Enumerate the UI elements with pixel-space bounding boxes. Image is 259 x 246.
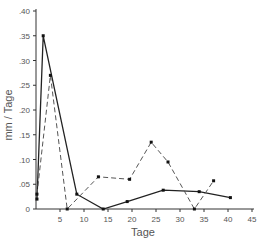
- y-tick-label: .40: [19, 7, 31, 16]
- x-tick-label: 25: [152, 215, 161, 224]
- data-point-marker: [102, 208, 105, 211]
- x-tick-label: 45: [248, 215, 257, 224]
- x-axis-title: Tage: [131, 226, 155, 238]
- x-tick-label: 15: [104, 215, 113, 224]
- data-point-marker: [35, 198, 38, 201]
- x-tick-label: 20: [128, 215, 137, 224]
- y-tick-label: 0: [26, 205, 31, 214]
- x-tick-label: 5: [58, 215, 63, 224]
- series-dashed-line: [37, 75, 214, 209]
- x-tick-label: 30: [176, 215, 185, 224]
- x-tick-label: 10: [80, 215, 89, 224]
- y-tick-label: .05: [19, 180, 31, 189]
- data-point-marker: [97, 175, 100, 178]
- y-tick-label: .30: [19, 57, 31, 66]
- data-point-marker: [66, 208, 69, 211]
- line-chart: 0.05.10.15.20.25.30.35.40 51015202530354…: [0, 0, 259, 246]
- y-axis-ticks: 0.05.10.15.20.25.30.35.40: [19, 7, 36, 214]
- data-point-marker: [229, 196, 232, 199]
- data-point-marker: [198, 190, 201, 193]
- series-layer: [35, 34, 231, 210]
- data-point-marker: [167, 160, 170, 163]
- data-point-marker: [193, 208, 196, 211]
- data-point-marker: [150, 141, 153, 144]
- y-tick-label: .15: [19, 131, 31, 140]
- y-tick-label: .10: [19, 156, 31, 165]
- x-tick-label: 40: [224, 215, 233, 224]
- data-point-marker: [35, 193, 38, 196]
- y-tick-label: .25: [19, 81, 31, 90]
- y-tick-label: .35: [19, 32, 31, 41]
- data-point-marker: [128, 178, 131, 181]
- x-axis-ticks: 51015202530354045: [58, 209, 257, 224]
- y-tick-label: .20: [19, 106, 31, 115]
- data-point-marker: [162, 189, 165, 192]
- data-point-marker: [212, 179, 215, 182]
- data-point-marker: [42, 34, 45, 37]
- data-point-marker: [75, 193, 78, 196]
- series-solid-line: [37, 36, 230, 209]
- data-point-marker: [49, 74, 52, 77]
- data-point-marker: [126, 200, 129, 203]
- y-axis-title: mm / Tage: [2, 89, 14, 140]
- x-tick-label: 35: [200, 215, 209, 224]
